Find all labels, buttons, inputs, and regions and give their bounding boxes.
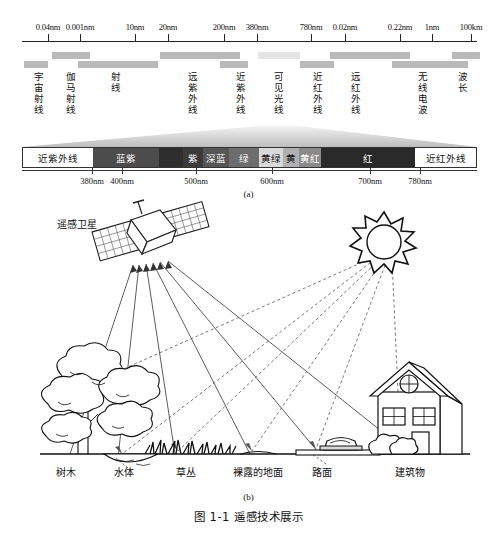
spectrum-segment: 近红外线 xyxy=(415,148,476,167)
spectrum-baseline xyxy=(22,170,477,171)
building-icon xyxy=(369,362,462,454)
spectrum-tick xyxy=(370,168,371,174)
band-name-label: 无线电波 xyxy=(416,72,428,116)
spectrum-tick-label: 400nm xyxy=(110,176,134,186)
spectrum-segment: 紫 xyxy=(183,148,203,167)
reflected-ray-arrowheads xyxy=(130,261,172,273)
spectrum-tick-label: 380nm xyxy=(80,176,104,186)
spectrum-tick-label: 700nm xyxy=(358,176,382,186)
spectrum-tick-label: 500nm xyxy=(184,176,208,186)
scale-tick-label: 1nm xyxy=(425,22,440,32)
spectrum-tick-label: 600nm xyxy=(260,176,284,186)
band-marker xyxy=(300,61,334,68)
ground-feature-label: 建筑物 xyxy=(395,464,425,479)
spectrum-tick-label: 780nm xyxy=(408,176,432,186)
grass-icon xyxy=(145,440,236,454)
axis-tick xyxy=(257,34,258,41)
band-name-label: 伽马射线 xyxy=(64,72,76,116)
road-icon xyxy=(296,450,380,455)
sun-icon xyxy=(350,212,416,273)
scale-tick-label: 0.22nm xyxy=(388,22,413,32)
band-marker xyxy=(220,61,248,68)
spectrum-tick xyxy=(92,168,93,174)
band-marker xyxy=(78,61,158,68)
spectrum-segment xyxy=(159,148,183,167)
band-name-label: 远紫外线 xyxy=(186,72,198,116)
scale-tick-label: 0.04nm xyxy=(36,22,61,32)
visible-light-funnel xyxy=(0,126,497,147)
band-name-label: 近红外线 xyxy=(311,72,323,116)
band-name-label: 近紫外线 xyxy=(234,72,246,116)
axis-tick xyxy=(224,34,225,41)
axis-tick xyxy=(135,34,136,41)
scale-tick-label: 780nm xyxy=(300,22,323,32)
band-marker xyxy=(330,52,410,59)
subfigure-label-b: (b) xyxy=(0,492,497,502)
spectrum-segment: 红 xyxy=(321,148,415,167)
spectrum-segment: 深蓝 xyxy=(203,148,229,167)
scale-tick-label: 10nm xyxy=(126,22,145,32)
car-icon xyxy=(320,438,362,451)
spectrum-tick xyxy=(122,168,123,174)
ground-feature-label: 裸露的地面 xyxy=(233,464,283,479)
panel-remote-sensing-scene: (b) 遥感卫星树木水体草丛裸露的地面路面建筑物 xyxy=(0,196,497,506)
axis-tick xyxy=(400,34,401,41)
axis-tick xyxy=(471,34,472,41)
spectrum-segment: 黄 xyxy=(283,148,299,167)
scale-tick-label: 20nm xyxy=(159,22,178,32)
band-marker xyxy=(392,61,468,68)
scale-label-row: 0.04nm0.001nm10nm20nm200nm380nm780nm0.02… xyxy=(0,22,497,36)
spectrum-segment: 黄红 xyxy=(299,148,321,167)
visible-spectrum-bar: 近紫外线蓝紫紫深蓝绿黄绿黄黄红红近红外线 xyxy=(22,147,477,168)
spectrum-tick xyxy=(420,168,421,174)
axis-tick xyxy=(80,34,81,41)
spectrum-segment: 近紫外线 xyxy=(23,148,93,167)
band-marker xyxy=(24,61,48,68)
scale-tick-label: 0.02nm xyxy=(333,22,358,32)
band-marker xyxy=(258,52,300,59)
scale-tick-label: 200nm xyxy=(213,22,236,32)
band-name-label: 波长 xyxy=(456,72,468,94)
panel-spectrum-chart: 0.04nm0.001nm10nm20nm200nm380nm780nm0.02… xyxy=(0,0,497,200)
scale-tick-label: 380nm xyxy=(246,22,269,32)
spectrum-tick xyxy=(196,168,197,174)
band-name-label: 宇宙射线 xyxy=(32,72,44,116)
ground-feature-label: 路面 xyxy=(312,464,332,479)
scale-tick-label: 0.001nm xyxy=(66,22,95,32)
satellite-label: 遥感卫星 xyxy=(57,216,97,231)
axis-tick xyxy=(432,34,433,41)
ground-feature-label: 树木 xyxy=(56,464,76,479)
ground-feature-label: 草丛 xyxy=(176,464,196,479)
wavelength-axis-line xyxy=(22,41,477,42)
spectrum-segment: 蓝紫 xyxy=(93,148,159,167)
ground-feature-label: 水体 xyxy=(114,464,134,479)
scene-illustration xyxy=(0,196,497,506)
tree-cluster-icon xyxy=(41,343,159,454)
axis-tick xyxy=(168,34,169,41)
figure-caption: 图 1-1 遥感技术展示 xyxy=(0,508,497,524)
band-marker xyxy=(452,52,480,59)
scale-tick-label: 100km xyxy=(460,22,483,32)
band-marker xyxy=(52,52,90,59)
band-marker xyxy=(160,52,240,59)
spectrum-tick xyxy=(272,168,273,174)
band-name-label: 射线 xyxy=(109,72,121,94)
spectrum-segment: 绿 xyxy=(229,148,259,167)
axis-tick xyxy=(48,34,49,41)
axis-tick xyxy=(311,34,312,41)
band-name-label: 远红外线 xyxy=(349,72,361,116)
satellite-icon xyxy=(92,200,209,261)
axis-tick xyxy=(345,34,346,41)
spectrum-segment: 黄绿 xyxy=(259,148,283,167)
band-name-label: 可见光线 xyxy=(272,72,284,116)
